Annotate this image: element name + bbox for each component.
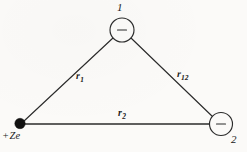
- r1-subscript: 1: [80, 74, 84, 83]
- node-nucleus-dot: [15, 118, 25, 128]
- diagram-canvas: [0, 0, 247, 152]
- electron-2-index-label: 2: [231, 134, 237, 145]
- electron-1-index-label: 1: [117, 2, 123, 13]
- node-electron-2: [210, 113, 233, 136]
- distance-label-r1: r1: [76, 71, 84, 81]
- nucleus-charge-label: +Ze: [2, 131, 21, 142]
- edge-r12: [132, 39, 214, 118]
- r2-subscript: 2: [122, 112, 126, 121]
- atom-geometry-diagram: 1 2 +Ze r1 r12 r2: [0, 0, 247, 152]
- distance-label-r2: r2: [118, 108, 126, 118]
- r12-subscript: 12: [181, 72, 189, 81]
- edge-r1: [24, 38, 114, 122]
- node-electron-1: [110, 18, 134, 42]
- distance-label-r12: r12: [177, 69, 189, 79]
